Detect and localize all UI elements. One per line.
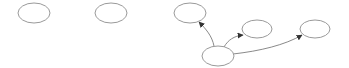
- node-5[interactable]: [300, 20, 330, 38]
- node-4[interactable]: [242, 20, 272, 38]
- node-6-source[interactable]: [202, 46, 234, 66]
- graph-canvas: [0, 0, 349, 68]
- edge-n6-to-n3[interactable]: [199, 22, 214, 46]
- node-1[interactable]: [18, 3, 50, 23]
- node-3[interactable]: [174, 3, 206, 23]
- edge-n6-to-n5[interactable]: [233, 35, 302, 54]
- node-2[interactable]: [95, 3, 127, 23]
- edge-n6-to-n4[interactable]: [224, 35, 243, 47]
